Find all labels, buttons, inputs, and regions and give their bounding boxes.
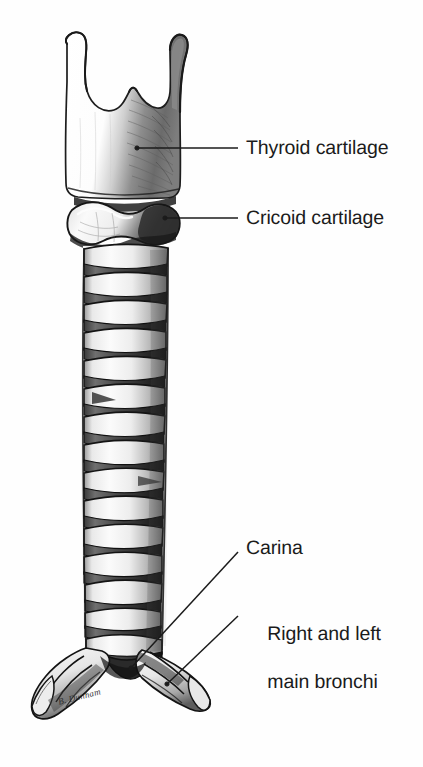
label-main-bronchi-line1: Right and left [267, 623, 381, 645]
anatomy-figure: Thyroid cartilage Cricoid cartilage Cari… [0, 0, 423, 767]
thyroid-cartilage-body [66, 32, 188, 198]
label-carina: Carina [246, 536, 303, 560]
label-main-bronchi: Right and left main bronchi [246, 598, 381, 718]
label-thyroid-cartilage: Thyroid cartilage [246, 136, 388, 160]
leader-line-bronchi [167, 616, 238, 684]
left-main-bronchus [32, 648, 110, 719]
right-main-bronchus [136, 650, 210, 711]
label-cricoid-cartilage: Cricoid cartilage [246, 206, 384, 230]
label-main-bronchi-line2: main bronchi [267, 671, 377, 693]
thyroid-cartilage-group [66, 32, 188, 198]
trachea-group [81, 244, 169, 666]
